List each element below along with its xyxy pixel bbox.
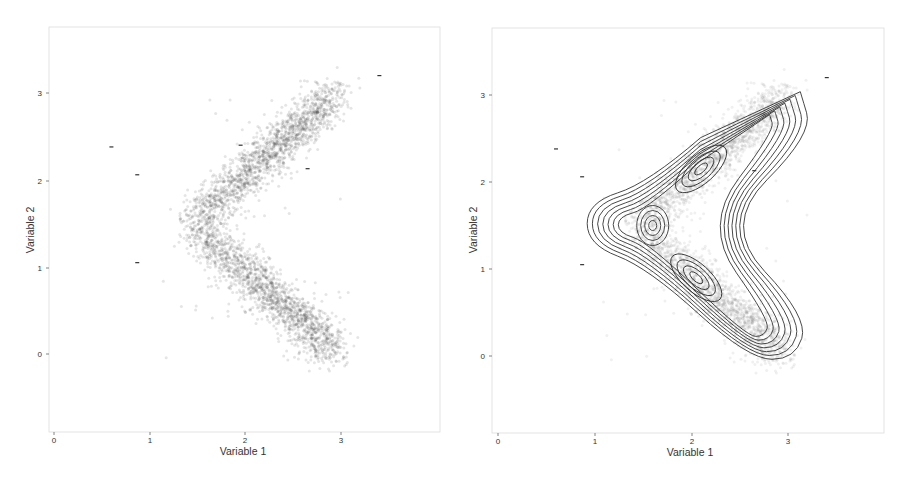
scatter-points bbox=[162, 66, 362, 373]
x-tick-label: 3 bbox=[786, 437, 791, 446]
scatter-plot-panel: 0 1 2 3 3 2 1 0 Variable 1 Variable 2 bbox=[0, 0, 455, 482]
y-tick-label: 1 bbox=[38, 264, 43, 273]
density-contour-plot-panel: 0 1 2 3 3 2 1 0 Variable 1 Variable 2 bbox=[443, 0, 911, 482]
y-axis-title: Variable 2 bbox=[24, 207, 36, 254]
plot-frame bbox=[492, 28, 884, 433]
y-tick-label: 2 bbox=[481, 178, 486, 187]
x-axis-title: Variable 1 bbox=[667, 446, 714, 458]
x-axis-ticks bbox=[54, 432, 341, 435]
y-axis-ticks bbox=[489, 95, 492, 356]
x-tick-label: 0 bbox=[496, 437, 501, 446]
y-tick-label: 3 bbox=[38, 89, 43, 98]
y-tick-label: 0 bbox=[481, 352, 486, 361]
x-tick-label: 2 bbox=[243, 436, 248, 445]
y-tick-label: 3 bbox=[481, 91, 486, 100]
x-tick-label: 1 bbox=[593, 437, 598, 446]
plot-frame bbox=[49, 27, 440, 432]
scatter-plot: 0 1 2 3 3 2 1 0 Variable 1 Variable 2 bbox=[0, 0, 455, 482]
density-contour-plot: 0 1 2 3 3 2 1 0 Variable 1 Variable 2 bbox=[443, 0, 911, 482]
scatter-points bbox=[602, 68, 809, 375]
x-tick-label: 0 bbox=[52, 436, 57, 445]
x-axis-ticks bbox=[498, 433, 788, 436]
y-axis-ticks bbox=[46, 93, 49, 354]
x-tick-label: 2 bbox=[690, 437, 695, 446]
y-tick-label: 2 bbox=[38, 177, 43, 186]
x-axis-title: Variable 1 bbox=[220, 445, 267, 457]
y-tick-label: 1 bbox=[481, 265, 486, 274]
x-tick-label: 3 bbox=[339, 436, 344, 445]
x-tick-label: 1 bbox=[148, 436, 153, 445]
y-tick-label: 0 bbox=[38, 350, 43, 359]
y-axis-title: Variable 2 bbox=[467, 207, 479, 254]
